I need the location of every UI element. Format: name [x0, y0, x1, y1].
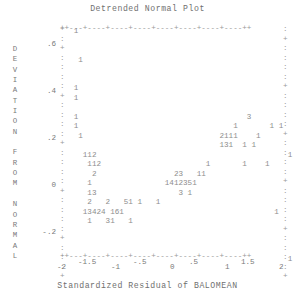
axis-tick-mark: : — [283, 54, 288, 64]
axis-tick-mark: : — [283, 73, 288, 83]
axis-tick-mark: : — [283, 168, 288, 178]
y-axis-label-letter: R — [8, 220, 22, 230]
y-axis-label-letter: F — [8, 147, 22, 157]
detrended-normal-plot: Detrended Normal Plot DEVIATION FROM NOR… — [0, 0, 295, 299]
y-axis-label-letter: V — [8, 65, 22, 75]
y-tick-label: .4 — [26, 88, 56, 96]
axis-tick-mark: : — [283, 120, 288, 130]
y-axis-label-letter: R — [8, 158, 22, 168]
data-point-row: 13424 161 1 — [60, 208, 279, 218]
y-tick-label: -.2 — [26, 229, 56, 237]
data-point-row: 1 — [60, 84, 78, 94]
axis-tick-mark: : — [283, 44, 288, 54]
y-axis-label-letter — [8, 189, 22, 199]
axis-tick-mark: : — [283, 206, 288, 216]
data-point-row: 13 3 1 — [60, 189, 192, 199]
top-axis-line: ++---+----+----+----+----+----+----+----… — [60, 25, 251, 33]
axis-tick-mark: : — [283, 101, 288, 111]
axis-tick-mark: : — [283, 215, 288, 225]
y-axis-label: DEVIATION FROM NORMAL — [8, 44, 22, 261]
y-axis-label-letter: I — [8, 75, 22, 85]
axis-tick-mark: + — [283, 225, 288, 235]
y-axis-label-letter: A — [8, 241, 22, 251]
y-axis-label-letter: N — [8, 199, 22, 209]
data-point-row: 112 1 — [60, 151, 292, 161]
axis-tick-mark: : — [283, 63, 288, 73]
y-axis-label-letter: O — [8, 116, 22, 126]
data-point-row: 2 23 11 — [60, 170, 206, 180]
data-point-row: 1 1 1 1 — [60, 122, 283, 132]
data-point-row: 1 — [60, 56, 83, 66]
y-axis-label-letter: M — [8, 178, 22, 188]
y-tick-label: .2 — [26, 135, 56, 143]
y-axis-label-letter: M — [8, 230, 22, 240]
y-axis-label-letter: T — [8, 96, 22, 106]
data-point-row: 1 31 1 — [60, 217, 133, 227]
data-point-row: 1 3 — [60, 113, 251, 123]
y-axis-label-letter — [8, 137, 22, 147]
y-axis-label-letter: E — [8, 54, 22, 64]
axis-tick-mark: + — [283, 130, 288, 140]
axis-tick-mark: : — [283, 244, 288, 254]
axis-tick-mark: : — [283, 25, 288, 35]
axis-tick-mark: : — [283, 196, 288, 206]
axis-tick-mark: + — [283, 177, 288, 187]
axis-tick-mark: + — [60, 44, 65, 54]
axis-tick-mark: + — [60, 234, 65, 244]
data-point-row: 2 2 51 1 1 — [60, 198, 160, 208]
y-axis-label-letter: O — [8, 168, 22, 178]
axis-tick-mark: : — [60, 73, 65, 83]
axis-tick-mark: + — [283, 82, 288, 92]
y-axis-label-letter: O — [8, 210, 22, 220]
x-axis-label: Standardized Residual of BALOMEAN — [0, 282, 295, 290]
axis-tick-mark: : — [283, 187, 288, 197]
data-point-row: 1 — [60, 255, 292, 265]
data-point-row: 1 — [60, 94, 78, 104]
data-point-row: 1 2111 1 — [60, 132, 261, 142]
y-axis-label-letter: N — [8, 127, 22, 137]
axis-tick-mark: : — [283, 139, 288, 149]
page-title: Detrended Normal Plot — [0, 5, 295, 13]
y-tick-label: 0 — [26, 182, 56, 190]
y-axis-label-letter: I — [8, 106, 22, 116]
axis-tick-mark: : — [283, 92, 288, 102]
axis-tick-mark: : — [283, 111, 288, 121]
axis-tick-mark: : — [283, 234, 288, 244]
y-axis-label-letter: D — [8, 44, 22, 54]
data-point-row: 1 1412351 — [60, 179, 197, 189]
data-point-row: 131 1 1 — [60, 141, 256, 151]
y-tick-label: .6 — [26, 41, 56, 49]
data-point-row: 1 — [60, 27, 78, 37]
y-axis-label-letter: A — [8, 85, 22, 95]
data-point-row: 112 1 1 1 — [60, 160, 270, 170]
y-axis-label-letter: L — [8, 251, 22, 261]
axis-tick-mark: + — [283, 35, 288, 45]
axis-tick-mark: + — [283, 272, 288, 282]
